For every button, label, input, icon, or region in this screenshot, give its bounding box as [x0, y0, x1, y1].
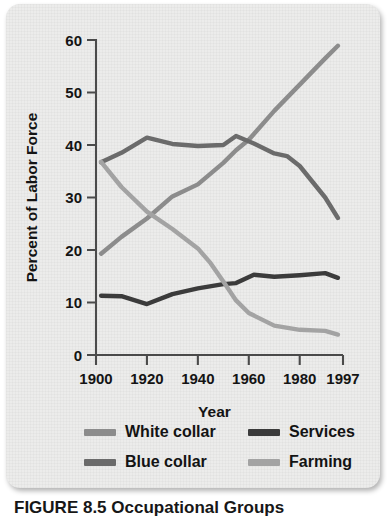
chart-card: 0102030405060190019201940196019801997Per… [6, 4, 380, 488]
legend-label-blue-collar: Blue collar [125, 454, 207, 470]
legend-swatch-services [248, 429, 280, 436]
x-tick-label: 1920 [130, 370, 163, 387]
y-tick-label: 60 [65, 32, 82, 49]
series-line-farming [101, 162, 338, 335]
x-tick-label: 1997 [326, 370, 359, 387]
legend-item-services: Services [248, 424, 355, 440]
line-chart: 0102030405060190019201940196019801997Per… [6, 4, 380, 488]
x-tick-label: 1940 [181, 370, 214, 387]
y-tick-label: 50 [65, 84, 82, 101]
legend-item-blue-collar: Blue collar [84, 454, 207, 470]
figure-caption-text: FIGURE 8.5 Occupational Groups [14, 499, 284, 516]
legend-label-farming: Farming [289, 454, 352, 470]
legend-label-white-collar: White collar [125, 424, 216, 440]
y-axis-title: Percent of Labor Force [23, 112, 40, 282]
legend-item-white-collar: White collar [84, 424, 216, 440]
y-tick-label: 40 [65, 137, 82, 154]
x-tick-label: 1980 [283, 370, 316, 387]
y-tick-label: 10 [65, 294, 82, 311]
figure-root: 0102030405060190019201940196019801997Per… [0, 0, 391, 516]
chart-legend: White collar Blue collar Services Farmin… [20, 421, 370, 483]
y-tick-label: 0 [74, 347, 82, 364]
legend-swatch-white-collar [84, 429, 116, 436]
legend-label-services: Services [289, 424, 355, 440]
x-tick-label: 1960 [232, 370, 265, 387]
series-line-blue-collar [101, 136, 338, 218]
x-tick-label: 1900 [79, 370, 112, 387]
legend-swatch-farming [248, 459, 280, 466]
legend-swatch-blue-collar [84, 459, 116, 466]
figure-caption: FIGURE 8.5 Occupational Groups [14, 499, 384, 516]
legend-item-farming: Farming [248, 454, 352, 470]
y-tick-label: 30 [65, 189, 82, 206]
series-line-white-collar [101, 46, 338, 254]
x-axis-title: Year [198, 403, 231, 420]
y-tick-label: 20 [65, 242, 82, 259]
